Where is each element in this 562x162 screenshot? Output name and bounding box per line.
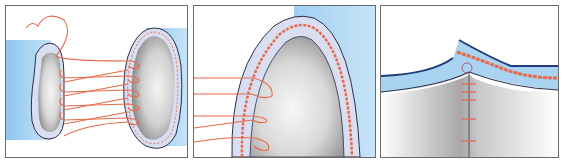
anastomosis-illustration [381,6,558,157]
vessel-closeup-illustration [194,6,375,157]
panel-completed-anastomosis [380,5,559,158]
panel-vessel-ends-sutures [5,5,188,158]
panel-vessel-closeup [193,5,376,158]
vessel-ends-illustration [6,6,187,157]
